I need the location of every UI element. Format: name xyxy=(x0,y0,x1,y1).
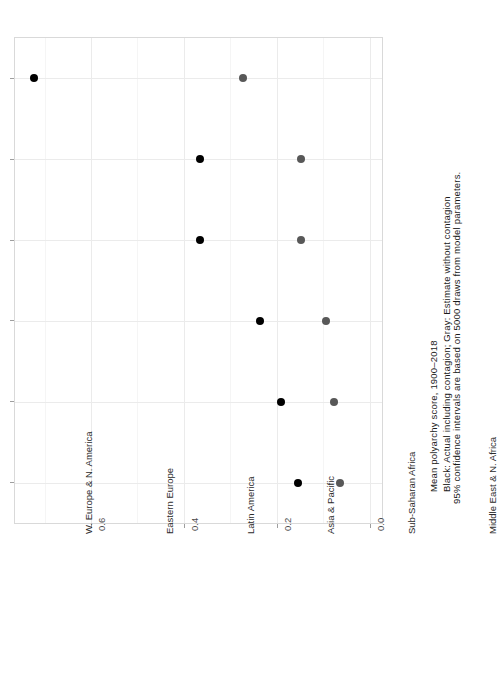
data-point-actual xyxy=(294,479,302,487)
data-point-actual xyxy=(277,398,285,406)
data-point-estimate xyxy=(297,155,305,163)
value-tick xyxy=(184,524,185,528)
category-axis-label: Asia & Pacific xyxy=(325,476,336,534)
gridline-major-0.0 xyxy=(370,38,371,523)
gridline-category xyxy=(15,78,382,79)
gridline-minor xyxy=(230,38,231,523)
category-tick xyxy=(10,320,14,321)
value-tick-label: 0.4 xyxy=(189,518,200,531)
category-tick xyxy=(10,240,14,241)
data-point-actual xyxy=(196,155,204,163)
gridline-major-0.2 xyxy=(277,38,278,523)
caption-line-2: 95% confidence intervals are based on 50… xyxy=(451,172,462,504)
gridline-major-0.4 xyxy=(184,38,185,523)
plot-panel xyxy=(14,37,383,524)
category-axis-label: Eastern Europe xyxy=(164,468,175,534)
data-point-estimate xyxy=(336,479,344,487)
data-point-estimate xyxy=(322,317,330,325)
category-axis-label: Sub-Saharan Africa xyxy=(406,452,417,534)
data-point-actual xyxy=(196,236,204,244)
value-tick-label: 0.0 xyxy=(375,518,386,531)
category-axis-label: Middle East & N. Africa xyxy=(487,437,498,534)
value-axis-title: Mean polyarchy score, 1900–2018 xyxy=(428,340,439,492)
value-tick-label: 0.6 xyxy=(96,518,107,531)
value-tick xyxy=(370,524,371,528)
value-tick xyxy=(277,524,278,528)
data-point-estimate xyxy=(297,236,305,244)
category-axis-label: Latin America xyxy=(245,476,256,534)
data-point-actual xyxy=(256,317,264,325)
gridline-minor xyxy=(323,38,324,523)
data-point-estimate xyxy=(330,398,338,406)
gridline-category xyxy=(15,402,382,403)
gridline-minor xyxy=(137,38,138,523)
category-tick xyxy=(10,482,14,483)
data-point-actual xyxy=(30,74,38,82)
category-tick xyxy=(10,159,14,160)
category-tick xyxy=(10,401,14,402)
category-tick xyxy=(10,78,14,79)
value-tick-label: 0.2 xyxy=(282,518,293,531)
category-axis-label: W. Europe & N. America xyxy=(83,432,94,534)
gridline-minor xyxy=(45,38,46,523)
data-point-estimate xyxy=(239,74,247,82)
